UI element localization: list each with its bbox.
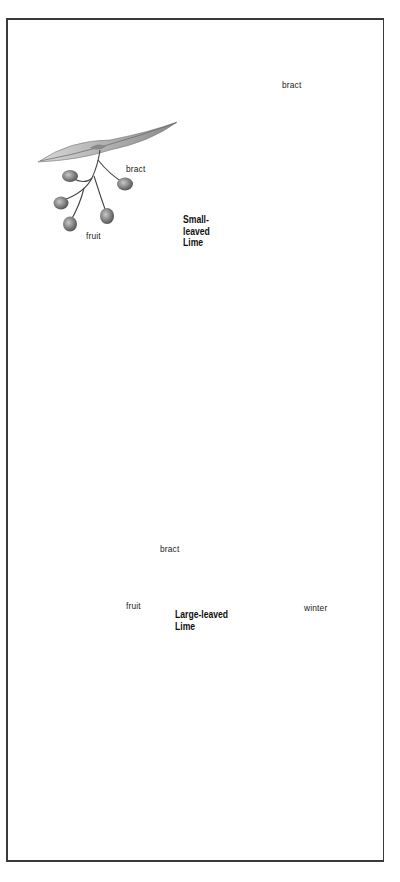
label-large-leaved-fruit: fruit	[126, 600, 141, 611]
title-line: Lime	[175, 621, 228, 633]
label-large-leaved-winter: winter	[304, 602, 327, 613]
title-line: Lime	[183, 237, 210, 249]
title-line: Large-leaved	[175, 609, 228, 621]
label-small-leaved-flower-bract: bract	[282, 79, 301, 90]
small-leaved-fruiting-spray	[38, 122, 177, 232]
title-large-leaved-lime: Large-leaved Lime	[175, 609, 228, 632]
plate-illustrations	[0, 0, 400, 882]
label-small-leaved-fruit: fruit	[86, 230, 101, 241]
title-small-leaved-lime: Small- leaved Lime	[183, 214, 210, 249]
title-line: leaved	[183, 226, 210, 238]
label-small-leaved-fruit-bract: bract	[126, 163, 145, 174]
label-large-leaved-bract: bract	[160, 543, 179, 554]
title-line: Small-	[183, 214, 210, 226]
